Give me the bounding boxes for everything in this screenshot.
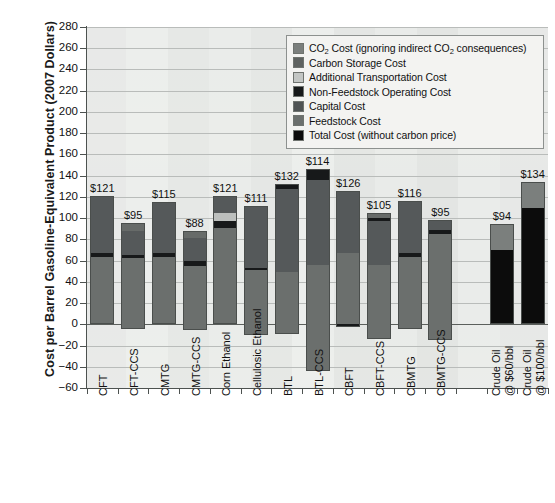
bar-segment: [429, 234, 451, 340]
x-axis-tick-label: CBMTG: [405, 356, 417, 396]
y-axis-tick: [80, 388, 87, 389]
legend-swatch: [293, 130, 304, 141]
y-axis-tick-label: −40: [42, 360, 78, 372]
bar-segment: [153, 257, 175, 324]
y-axis-tick: [80, 218, 87, 219]
legend-label: Additional Transportation Cost: [309, 71, 447, 83]
bar-segment: [368, 221, 390, 265]
y-axis-tick-label: 260: [42, 41, 78, 53]
gridline: [87, 27, 548, 28]
bar-segment: [122, 231, 144, 255]
bar-segment: [184, 266, 206, 330]
bar-value-label: $116: [387, 187, 433, 199]
bar-segment: [491, 250, 513, 324]
bar-segment: [368, 265, 390, 339]
bar-segment: [276, 272, 298, 334]
bar-value-label: $121: [79, 182, 125, 194]
bar-segment: [307, 180, 329, 265]
y-axis-tick: [80, 154, 87, 155]
bar-segment: [399, 253, 421, 257]
legend-label: CO2 Cost (ignoring indirect CO2 conseque…: [309, 42, 526, 54]
bar-segment: [337, 253, 359, 324]
legend-item[interactable]: Capital Cost: [293, 99, 537, 113]
bar[interactable]: [367, 213, 391, 339]
y-axis-tick-label: −20: [42, 339, 78, 351]
bar-value-label: $105: [356, 199, 402, 211]
bar-segment: [91, 197, 113, 253]
legend-item[interactable]: CO2 Cost (ignoring indirect CO2 conseque…: [293, 41, 537, 55]
y-axis-tick: [80, 261, 87, 262]
bar-value-label: $114: [295, 155, 341, 167]
bar[interactable]: [213, 196, 237, 324]
x-axis-tick-label: Corn Ethanol: [220, 332, 232, 396]
legend-item[interactable]: Non-Feedstock Operating Cost: [293, 85, 537, 99]
bar[interactable]: [336, 191, 360, 328]
y-axis-tick-label: 120: [42, 190, 78, 202]
x-axis-tick: [364, 388, 365, 394]
x-axis-tick-label: CMTG-CCS: [190, 337, 202, 396]
bar-segment: [276, 185, 298, 189]
bar-value-label: $132: [264, 170, 310, 182]
y-axis-tick-label: 60: [42, 254, 78, 266]
bar-segment: [399, 257, 421, 328]
y-axis-tick-label: 280: [42, 20, 78, 32]
legend-label: Capital Cost: [309, 100, 365, 112]
legend-item[interactable]: Carbon Storage Cost: [293, 56, 537, 70]
y-axis-tick: [80, 48, 87, 49]
bar[interactable]: [521, 182, 545, 324]
bar-value-label: $94: [479, 210, 525, 222]
y-axis-tick-label: 220: [42, 84, 78, 96]
y-axis-tick-label: 20: [42, 296, 78, 308]
bar[interactable]: [398, 201, 422, 328]
x-axis-tick: [517, 388, 518, 394]
legend-item[interactable]: Total Cost (without carbon price): [293, 128, 537, 142]
bar[interactable]: [490, 224, 514, 324]
legend-item[interactable]: Additional Transportation Cost: [293, 70, 537, 84]
bar-segment: [122, 224, 144, 230]
bar[interactable]: [306, 169, 330, 371]
y-axis-tick: [80, 324, 87, 325]
legend-item[interactable]: Feedstock Cost: [293, 114, 537, 128]
y-axis-tick: [80, 112, 87, 113]
bar-value-label: $88: [172, 217, 218, 229]
bar-segment: [276, 189, 298, 272]
bar-segment: [429, 221, 451, 229]
bar-value-label: $111: [233, 192, 279, 204]
bar-segment: [214, 221, 236, 227]
bar[interactable]: [275, 184, 299, 334]
legend-swatch: [293, 101, 304, 112]
x-axis-tick: [241, 388, 242, 394]
x-axis-tick: [271, 388, 272, 394]
bar-segment: [368, 214, 390, 218]
bar-segment: [368, 218, 390, 221]
x-axis-tick-label: BTL: [282, 376, 294, 396]
legend-label: Non-Feedstock Operating Cost: [309, 86, 451, 98]
bar-segment: [491, 225, 513, 249]
x-axis-tick: [148, 388, 149, 394]
legend-swatch: [293, 57, 304, 68]
bar[interactable]: [428, 220, 452, 340]
bar-value-label: $126: [325, 177, 371, 189]
bar-segment: [522, 183, 544, 208]
y-axis-tick-label: −60: [42, 381, 78, 393]
bar-segment: [184, 232, 206, 238]
bar-segment: [91, 257, 113, 324]
bar-value-label: $115: [141, 188, 187, 200]
x-axis-tick: [456, 388, 457, 394]
bar[interactable]: [121, 223, 145, 328]
x-axis-tick: [210, 388, 211, 394]
legend-label: Feedstock Cost: [309, 115, 381, 127]
bar-segment: [184, 238, 206, 260]
x-axis-tick-label: Cellulosic Ethanol: [251, 309, 263, 396]
legend-label: Carbon Storage Cost: [309, 57, 406, 69]
x-axis-tick: [87, 388, 88, 394]
bar-segment: [184, 261, 206, 266]
bar-segment: [245, 268, 267, 270]
y-axis-line: [86, 26, 87, 389]
y-axis-tick: [80, 197, 87, 198]
legend-label: Total Cost (without carbon price): [309, 129, 456, 141]
x-axis-tick: [394, 388, 395, 394]
bar[interactable]: [183, 231, 207, 330]
x-axis-tick: [118, 388, 119, 394]
x-axis-tick: [548, 388, 549, 394]
